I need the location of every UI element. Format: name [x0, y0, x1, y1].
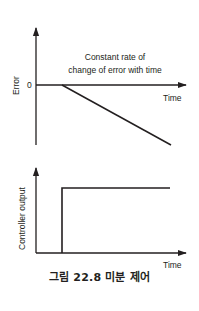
zero-tick-label: 0 — [27, 80, 32, 90]
diagram-canvas: Error 0 Time Constant rate of change of … — [0, 0, 199, 311]
error-curve — [62, 85, 171, 145]
annotation-line-1: Constant rate of — [85, 52, 146, 62]
output-y-label: Controller output — [17, 187, 27, 250]
output-step-curve — [62, 188, 170, 253]
controller-output-chart: Controller output Time — [17, 168, 186, 270]
figure-caption: 그림 22.8 미분 제어 — [0, 268, 199, 284]
annotation-line-2: change of error with time — [68, 65, 162, 75]
error-chart: Error 0 Time Constant rate of change of … — [11, 28, 186, 145]
error-y-label: Error — [11, 76, 21, 95]
error-x-label: Time — [163, 93, 182, 103]
